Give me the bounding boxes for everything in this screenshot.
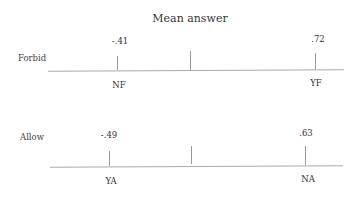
- forbid-tick-nf: [117, 56, 118, 70]
- chart-title: Mean answer: [0, 12, 360, 25]
- forbid-category-nf: NF: [112, 80, 125, 90]
- row-label-allow: Allow: [20, 132, 44, 142]
- forbid-axis-line: [48, 69, 344, 72]
- forbid-value-yf: .72: [311, 34, 325, 44]
- allow-category-na: NA: [301, 174, 315, 184]
- allow-value-ya: -.49: [101, 130, 117, 140]
- row-label-forbid: Forbid: [18, 53, 46, 63]
- forbid-value-nf: -.41: [112, 36, 128, 46]
- allow-center-tick: [191, 146, 192, 164]
- forbid-tick-yf: [315, 53, 316, 69]
- forbid-category-yf: YF: [310, 78, 322, 88]
- allow-tick-na: [305, 146, 306, 165]
- allow-axis-line: [50, 165, 343, 168]
- allow-value-na: .63: [299, 128, 313, 138]
- allow-category-ya: YA: [105, 176, 116, 186]
- allow-tick-ya: [109, 151, 110, 166]
- forbid-center-tick: [190, 51, 191, 70]
